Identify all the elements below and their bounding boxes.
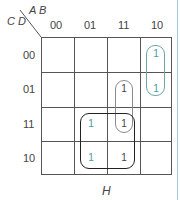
col-header-01: 01 <box>84 19 96 31</box>
row-variable-label: C D <box>7 15 26 27</box>
grid-hline <box>42 107 171 108</box>
cell-01-11: 1 <box>118 83 130 94</box>
cell-10-11: 1 <box>118 152 130 163</box>
row-header-01: 01 <box>23 83 35 95</box>
group-annotation-H: H <box>102 184 111 198</box>
row-header-10: 10 <box>23 152 35 164</box>
grid-vline <box>74 38 75 174</box>
col-header-00: 00 <box>50 19 62 31</box>
cell-10-01: 1 <box>85 152 97 163</box>
cell-01-10: 1 <box>150 83 162 94</box>
grid-vline <box>140 38 141 174</box>
col-header-10: 10 <box>151 19 163 31</box>
col-header-11: 11 <box>118 19 129 31</box>
cell-00-10: 1 <box>150 48 162 59</box>
cell-11-11: 1 <box>118 118 130 129</box>
cell-11-01: 1 <box>85 118 97 129</box>
row-header-00: 00 <box>23 49 35 61</box>
side-border-line <box>177 0 178 200</box>
col-variable-label: A B <box>29 4 46 16</box>
row-header-11: 11 <box>23 118 34 130</box>
